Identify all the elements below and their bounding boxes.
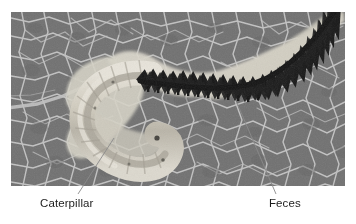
- leaf-photograph-image: [11, 12, 345, 186]
- leaf-photograph: [11, 12, 345, 186]
- label-feces: Feces: [269, 197, 301, 209]
- figure-root: Caterpillar Feces: [0, 0, 356, 224]
- label-caterpillar: Caterpillar: [40, 197, 94, 209]
